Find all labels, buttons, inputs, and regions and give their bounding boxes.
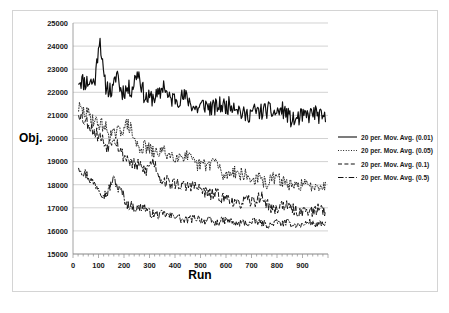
x-tick-label: 0 xyxy=(71,261,75,270)
y-tick-label: 21000 xyxy=(47,111,68,120)
y-tick-label: 20000 xyxy=(47,134,68,143)
x-tick-label: 200 xyxy=(118,261,131,270)
x-tick-label: 900 xyxy=(296,261,309,270)
y-tick-label: 18000 xyxy=(47,181,68,190)
series-line-s05 xyxy=(79,168,326,228)
y-axis-tick-labels: 1500016000170001800019000200002100022000… xyxy=(47,19,68,259)
series-line-s01 xyxy=(79,114,326,217)
x-tick-label: 700 xyxy=(245,261,258,270)
x-tick-label: 800 xyxy=(271,261,284,270)
x-tick-label: 600 xyxy=(220,261,233,270)
x-axis-tickmarks xyxy=(73,254,328,258)
y-tick-label: 17000 xyxy=(47,204,68,213)
legend-label-1: 20 per. Mov. Avg. (0.05) xyxy=(361,147,433,155)
chart-frame: 1500016000170001800019000200002100022000… xyxy=(12,10,438,292)
series-group xyxy=(79,38,326,228)
legend-label-3: 20 per. Mov. Avg. (0.5) xyxy=(361,174,429,182)
legend-label-2: 20 per. Mov. Avg. (0.1) xyxy=(361,161,429,169)
y-tick-label: 23000 xyxy=(47,65,68,74)
y-tick-label: 25000 xyxy=(47,19,68,28)
legend-label-0: 20 per. Mov. Avg. (0.01) xyxy=(361,134,433,142)
y-tick-label: 24000 xyxy=(47,42,68,51)
x-tick-label: 400 xyxy=(169,261,182,270)
series-line-s001 xyxy=(79,38,326,126)
gridlines xyxy=(73,23,328,254)
y-axis-title: Obj. xyxy=(19,131,42,145)
chart-plot: 1500016000170001800019000200002100022000… xyxy=(13,11,439,293)
y-tick-label: 16000 xyxy=(47,227,68,236)
y-tick-label: 19000 xyxy=(47,157,68,166)
legend: 20 per. Mov. Avg. (0.01)20 per. Mov. Avg… xyxy=(338,134,433,183)
y-tick-label: 22000 xyxy=(47,88,68,97)
x-axis-title: Run xyxy=(188,268,211,282)
x-tick-label: 300 xyxy=(143,261,156,270)
y-tick-label: 15000 xyxy=(47,250,68,259)
x-tick-label: 100 xyxy=(92,261,105,270)
